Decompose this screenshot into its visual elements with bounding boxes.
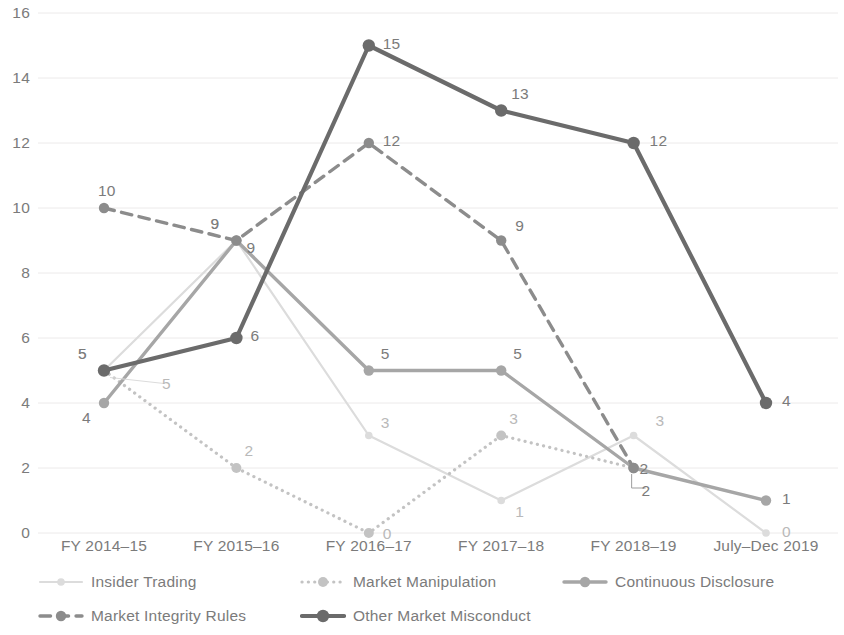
line-chart: 0246810121416 FY 2014–15FY 2015–16FY 201… (0, 0, 844, 635)
data-point-label: 2 (640, 460, 649, 478)
y-axis-tick-label: 8 (0, 264, 30, 282)
data-point-label: 9 (515, 217, 524, 235)
legend-swatch-icon (38, 608, 84, 624)
x-axis-tick-label: July–Dec 2019 (691, 537, 841, 555)
y-axis-tick-label: 14 (0, 69, 30, 87)
series-marker (496, 365, 506, 375)
series-marker (364, 365, 374, 375)
x-axis-tick-label: FY 2015–16 (161, 537, 311, 555)
data-point-label: 3 (381, 414, 390, 432)
legend-swatch-icon (38, 574, 84, 590)
data-point-label: 5 (381, 345, 390, 363)
y-axis-tick-label: 4 (0, 394, 30, 412)
data-point-label: 4 (82, 409, 91, 427)
legend-row: Insider TradingMarket ManipulationContin… (0, 567, 844, 597)
legend-row: Market Integrity RulesOther Market Misco… (0, 601, 844, 631)
legend-item-other-market-misconduct[interactable]: Other Market Misconduct (300, 601, 531, 631)
series-marker (99, 398, 109, 408)
data-point-label: 0 (782, 523, 791, 541)
data-point-label: 5 (162, 375, 171, 393)
data-point-label: 5 (513, 345, 522, 363)
series-marker (497, 497, 505, 505)
series-marker (363, 39, 375, 51)
series-marker (231, 463, 241, 473)
data-point-label: 4 (782, 392, 791, 410)
series-marker (628, 463, 638, 473)
legend-swatch-icon (562, 574, 608, 590)
data-point-label: 0 (383, 525, 392, 543)
series-marker (496, 235, 506, 245)
data-point-label: 13 (511, 85, 529, 103)
data-point-label: 12 (383, 132, 401, 150)
series-line (104, 46, 766, 404)
y-axis-tick-label: 2 (0, 459, 30, 477)
series-marker (98, 364, 110, 376)
legend-item-insider-trading[interactable]: Insider Trading (38, 567, 197, 597)
x-axis-tick-label: FY 2016–17 (294, 537, 444, 555)
chart-legend: Insider TradingMarket ManipulationContin… (0, 567, 844, 635)
series-marker (760, 397, 772, 409)
legend-item-market-integrity-rules[interactable]: Market Integrity Rules (38, 601, 246, 631)
data-point-label: 3 (509, 410, 518, 428)
data-point-label: 12 (650, 132, 668, 150)
y-axis-tick-label: 0 (0, 524, 30, 542)
series-line (104, 241, 766, 501)
data-point-label: 6 (250, 327, 259, 345)
y-axis-tick-label: 12 (0, 134, 30, 152)
series-marker (630, 432, 638, 440)
legend-label: Market Manipulation (353, 573, 496, 591)
series-marker (495, 104, 507, 116)
data-point-label: 2 (642, 482, 651, 500)
legend-swatch-icon (300, 608, 346, 624)
series-marker (496, 431, 506, 441)
y-axis-tick-label: 16 (0, 4, 30, 22)
series-marker (761, 495, 771, 505)
series-marker (231, 235, 241, 245)
series-marker (364, 138, 374, 148)
data-point-label: 10 (98, 182, 116, 200)
data-point-label: 15 (383, 35, 401, 53)
x-axis-tick-label: FY 2017–18 (426, 537, 576, 555)
data-point-label: 2 (244, 442, 253, 460)
y-axis-tick-label: 6 (0, 329, 30, 347)
data-point-label: 9 (246, 239, 255, 257)
legend-item-continuous-disclosure[interactable]: Continuous Disclosure (562, 567, 774, 597)
legend-label: Other Market Misconduct (353, 607, 531, 625)
legend-label: Insider Trading (91, 573, 197, 591)
series-marker (230, 332, 242, 344)
series-marker (365, 432, 373, 440)
data-point-label: 5 (78, 345, 87, 363)
legend-item-market-manipulation[interactable]: Market Manipulation (300, 567, 496, 597)
legend-swatch-icon (300, 574, 346, 590)
data-point-label: 3 (656, 412, 665, 430)
data-point-label: 1 (515, 503, 524, 521)
legend-label: Continuous Disclosure (615, 573, 774, 591)
x-axis-tick-label: FY 2014–15 (29, 537, 179, 555)
series-line (104, 241, 766, 534)
y-axis-tick-label: 10 (0, 199, 30, 217)
series-line (104, 371, 634, 534)
series-marker (99, 203, 109, 213)
data-point-label: 9 (210, 215, 219, 233)
legend-label: Market Integrity Rules (91, 607, 246, 625)
x-axis-tick-label: FY 2018–19 (559, 537, 709, 555)
series-marker (627, 137, 639, 149)
series-marker (762, 529, 770, 537)
data-point-label: 1 (782, 490, 791, 508)
